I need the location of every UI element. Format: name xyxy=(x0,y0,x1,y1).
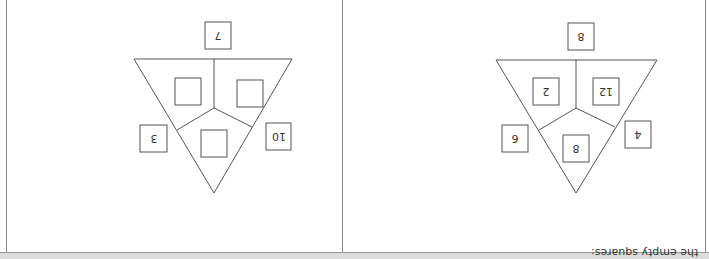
inner-right-square[interactable] xyxy=(237,80,263,107)
inner-right-value: 12 xyxy=(599,85,613,98)
puzzle-diagrams: 7 3 10 8 2 12 8 6 4 xyxy=(0,0,709,252)
inner-bottom-square[interactable] xyxy=(201,130,227,157)
puzzle-right xyxy=(496,23,657,193)
inner-left-square[interactable] xyxy=(175,78,201,105)
caption-text: the empty squares: xyxy=(591,246,698,259)
triangle-left xyxy=(134,59,292,193)
inner-left-value: 2 xyxy=(543,85,550,98)
divider-line xyxy=(214,108,252,127)
divider-line xyxy=(177,108,214,130)
left-outer-value: 6 xyxy=(512,132,519,145)
top-value: 8 xyxy=(578,30,585,43)
puzzle-left xyxy=(134,22,292,193)
inner-bottom-value: 8 xyxy=(573,142,580,155)
divider-line xyxy=(539,108,576,130)
right-outer-value: 4 xyxy=(635,128,642,141)
left-outer-value: 3 xyxy=(151,132,158,145)
divider-line xyxy=(576,108,615,127)
right-outer-value: 10 xyxy=(272,130,286,143)
top-value: 7 xyxy=(215,29,222,42)
